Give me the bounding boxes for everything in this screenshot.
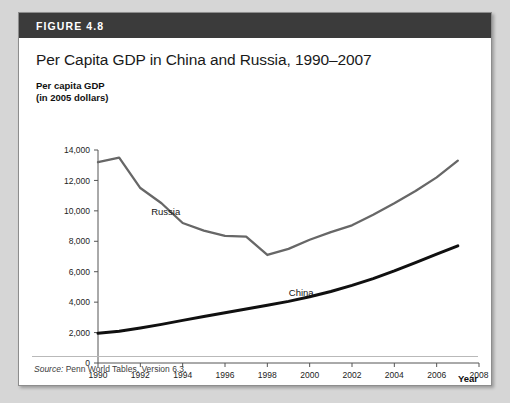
source-note: Source: Penn World Tables, Version 6.3. xyxy=(34,364,186,374)
series-line-china xyxy=(98,246,458,333)
y-tick-label: 14,000 xyxy=(64,145,90,155)
source-divider xyxy=(32,356,478,357)
x-tick-label: 2004 xyxy=(385,370,404,380)
source-prefix: Source: xyxy=(34,364,63,374)
chart-svg: 02,0004,0006,0008,00010,00012,00014,000 … xyxy=(19,38,491,385)
figure-body: Per Capita GDP in China and Russia, 1990… xyxy=(19,38,491,385)
x-tick-label: 2002 xyxy=(343,370,362,380)
figure-number-label: FIGURE 4.8 xyxy=(36,20,104,32)
x-axis-title: Year xyxy=(458,373,478,384)
y-tick-label: 12,000 xyxy=(64,176,90,186)
figure-card: FIGURE 4.8 Per Capita GDP in China and R… xyxy=(18,12,492,386)
x-tick-label: 2006 xyxy=(427,370,446,380)
plot-area: 02,0004,0006,0008,00010,00012,00014,000 … xyxy=(19,38,491,385)
x-tick-label: 2000 xyxy=(300,370,319,380)
series-inline-labels: RussiaChina xyxy=(151,206,314,298)
y-tick-label: 2,000 xyxy=(69,328,91,338)
series-label-china: China xyxy=(289,287,315,298)
y-axis-ticks: 02,0004,0006,0008,00010,00012,00014,000 xyxy=(64,145,98,368)
x-tick-label: 1996 xyxy=(216,370,235,380)
source-text: Penn World Tables, Version 6.3. xyxy=(63,364,186,374)
y-tick-label: 4,000 xyxy=(69,297,91,307)
y-tick-label: 8,000 xyxy=(69,236,91,246)
y-tick-label: 10,000 xyxy=(64,206,90,216)
data-series-group xyxy=(98,158,458,334)
figure-header-bar: FIGURE 4.8 xyxy=(19,13,491,38)
x-tick-label: 1998 xyxy=(258,370,277,380)
series-label-russia: Russia xyxy=(151,206,181,217)
y-tick-label: 6,000 xyxy=(69,267,91,277)
